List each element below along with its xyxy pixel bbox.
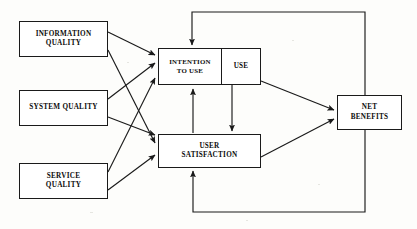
edge-information-quality-to-user-satisfaction: [108, 50, 155, 143]
node-user-satisfaction[interactable]: USER SATISFACTION: [158, 134, 261, 168]
node-label-user-satisfaction: USER SATISFACTION: [180, 142, 240, 161]
edge-information-quality-to-intention-to-use: [108, 32, 155, 55]
edge-service-quality-to-intention-to-use: [108, 78, 155, 172]
node-net-benefits[interactable]: NET BENEFITS: [337, 95, 402, 130]
edge-service-quality-to-user-satisfaction: [108, 155, 155, 190]
edge-use-to-net-benefits: [261, 81, 334, 110]
node-service-quality[interactable]: SERVICE QUALITY: [19, 163, 108, 199]
node-label-net-benefits: NET BENEFITS: [349, 103, 391, 122]
node-label-system-quality: SYSTEM QUALITY: [27, 103, 99, 112]
node-label-use: USE: [232, 62, 251, 71]
node-label-service-quality: SERVICE QUALITY: [44, 172, 83, 191]
edge-system-quality-to-intention-to-use: [108, 63, 155, 99]
edge-user-satisfaction-to-net-benefits: [261, 119, 334, 157]
node-information-quality[interactable]: INFORMATION QUALITY: [19, 21, 108, 57]
is-success-model-diagram: INFORMATION QUALITY SYSTEM QUALITY SERVI…: [0, 0, 417, 229]
node-intention-to-use[interactable]: INTENTION TO USE: [158, 48, 222, 85]
node-system-quality[interactable]: SYSTEM QUALITY: [19, 90, 108, 126]
node-label-information-quality: INFORMATION QUALITY: [34, 30, 94, 49]
node-label-intention-to-use: INTENTION TO USE: [167, 58, 213, 76]
node-use[interactable]: USE: [222, 48, 261, 85]
